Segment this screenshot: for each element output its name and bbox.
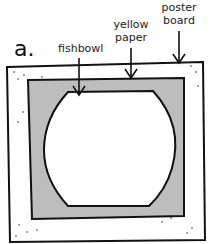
yellow-paper-label: yellow paper (110, 18, 152, 44)
yellow-paper-label-line2: paper (110, 31, 152, 44)
panel-letter: a. (14, 36, 34, 61)
fishbowl-label-text: fishbowl (58, 42, 103, 55)
poster-board-label-line2: board (158, 14, 200, 27)
poster-board-label-line1: poster (158, 1, 200, 14)
yellow-paper-label-line1: yellow (110, 18, 152, 31)
poster-board-label: poster board (158, 1, 200, 27)
fishbowl-label: fishbowl (58, 42, 102, 55)
fishbowl (44, 91, 175, 206)
